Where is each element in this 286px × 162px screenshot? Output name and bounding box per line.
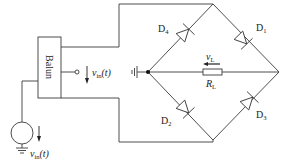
node-ground-icon: [132, 66, 137, 78]
source-label: vin(t): [30, 148, 50, 160]
wire-source: [22, 81, 38, 122]
load-voltage-label: vL: [206, 51, 214, 63]
arrow-down-icon: [37, 126, 41, 142]
diode-d2-icon: [175, 99, 195, 119]
diode-d4-label: D4: [158, 23, 169, 35]
wire-top: [61, 4, 213, 47]
load-resistor-label: RL: [205, 78, 216, 90]
load-resistor-icon: [203, 69, 222, 75]
ac-source-icon: [11, 122, 33, 144]
diode-d3-label: D3: [256, 109, 266, 121]
arrow-down-icon: [85, 66, 89, 84]
balun-output-label: vin(t): [92, 67, 112, 79]
bridge-top-right: [213, 4, 279, 72]
wire-bottom: [61, 98, 213, 142]
diode-d2-label: D2: [161, 115, 171, 127]
diode-d1-icon: [233, 30, 253, 50]
output-terminal: [75, 70, 79, 74]
junction-dot: [146, 70, 150, 74]
ground-icon: [16, 148, 28, 153]
balun-label: Balun: [44, 55, 55, 79]
circuit-diagram: Balun vin(t) vin(t) D4 D1 D2 D3 vL RL: [0, 0, 286, 162]
diode-d1-label: D1: [256, 22, 266, 34]
